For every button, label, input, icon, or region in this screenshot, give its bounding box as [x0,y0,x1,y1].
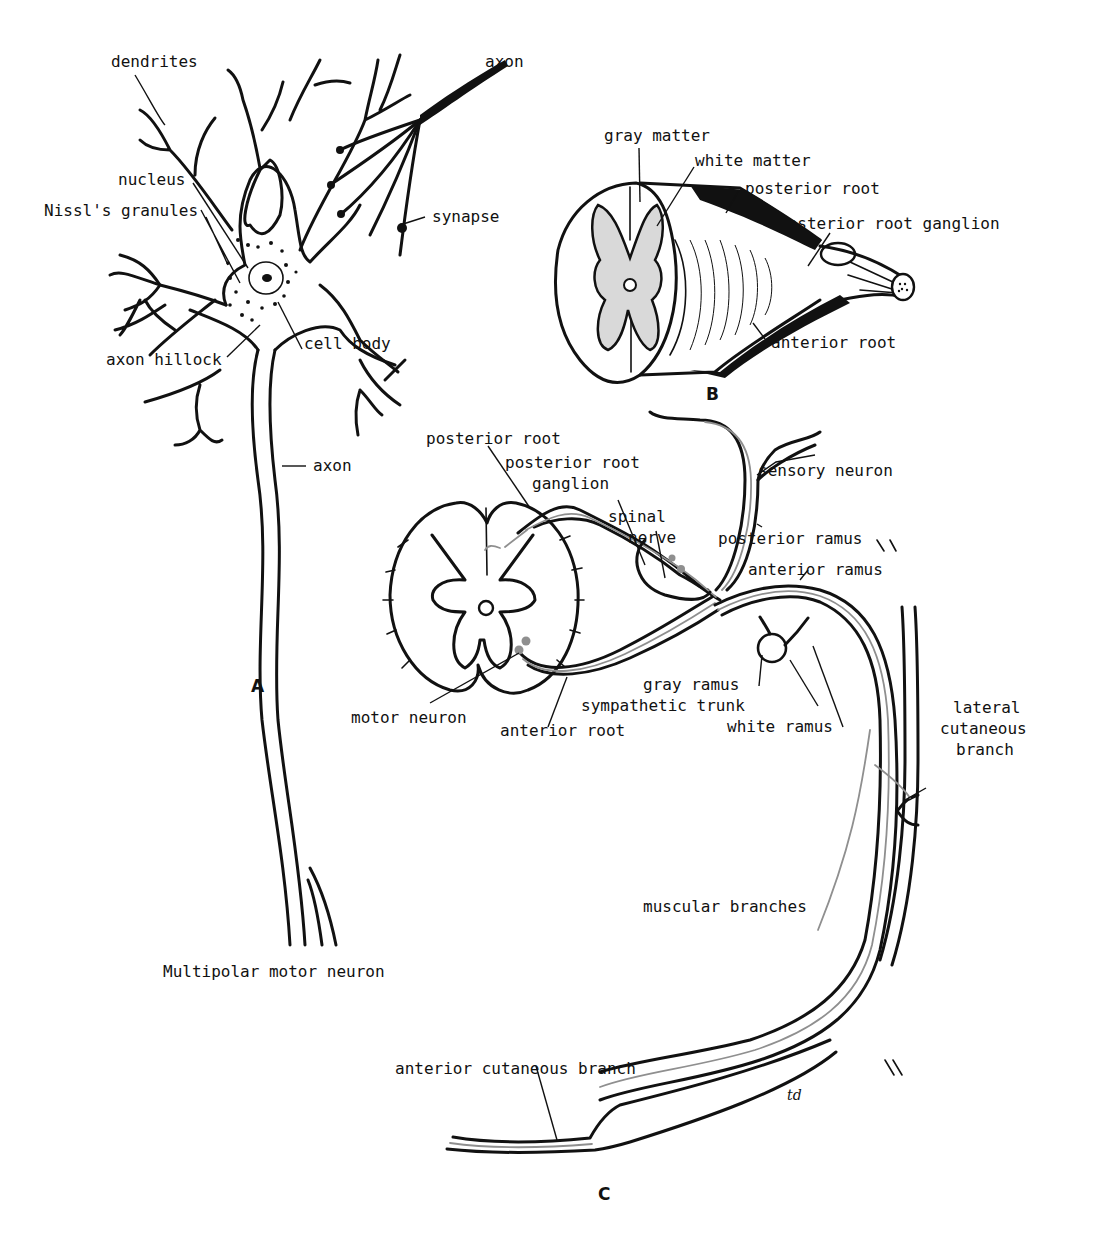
label-anterior-ramus: anterior ramus [748,560,883,579]
panel-letter-b: B [706,384,719,404]
label-cell-body: cell body [304,334,391,353]
label-motor-neuron: motor neuron [351,708,467,727]
label-anterior-root-b: anterior root [771,333,896,352]
panel-a-multipolar-neuron: dendrites axon nucleus Nissl's granules … [44,52,524,981]
label-gray-ramus: gray ramus [643,675,739,694]
neuron-anatomy-figure: dendrites axon nucleus Nissl's granules … [0,0,1100,1249]
label-posterior-root-ganglion-b: posterior root ganglion [778,214,1000,233]
label-posterior-ramus: posterior ramus [718,529,863,548]
label-white-ramus: white ramus [727,717,833,736]
panel-c-spinal-nerve: posterior root posterior root ganglion s… [351,412,1027,1204]
label-lateral-cutaneous-line2: cutaneous [940,719,1027,738]
label-posterior-root-b: posterior root [745,179,880,198]
label-anterior-cutaneous-branch: anterior cutaneous branch [395,1059,636,1078]
label-white-matter: white matter [695,151,811,170]
label-gray-matter: gray matter [604,126,710,145]
label-spinal-nerve-line1: spinal [608,507,666,526]
label-sympathetic-trunk: sympathetic trunk [581,696,745,715]
label-axon-top: axon [485,52,524,71]
label-posterior-root-ganglion-c-line1: posterior root [505,453,640,472]
label-synapse: synapse [432,207,499,226]
label-posterior-root-ganglion-c-line2: ganglion [532,474,609,493]
label-spinal-nerve-line2: nerve [628,528,676,547]
panel-letter-c: C [598,1184,610,1204]
label-nucleus: nucleus [118,170,185,189]
caption-multipolar-motor-neuron: Multipolar motor neuron [163,962,385,981]
label-muscular-branches: muscular branches [643,897,807,916]
label-nissl-granules: Nissl's granules [44,201,198,220]
label-lateral-cutaneous-line3: branch [956,740,1014,759]
artist-signature: td [787,1087,802,1103]
label-sensory-neuron: sensory neuron [758,461,893,480]
label-dendrites: dendrites [111,52,198,71]
label-axon: axon [313,456,352,475]
label-posterior-root-c: posterior root [426,429,561,448]
panel-b-spinal-cord-segment: gray matter white matter posterior root … [556,126,1000,404]
label-anterior-root-c: anterior root [500,721,625,740]
label-axon-hillock: axon hillock [106,350,222,369]
panel-letter-a: A [251,676,265,696]
label-lateral-cutaneous-line1: lateral [953,698,1020,717]
